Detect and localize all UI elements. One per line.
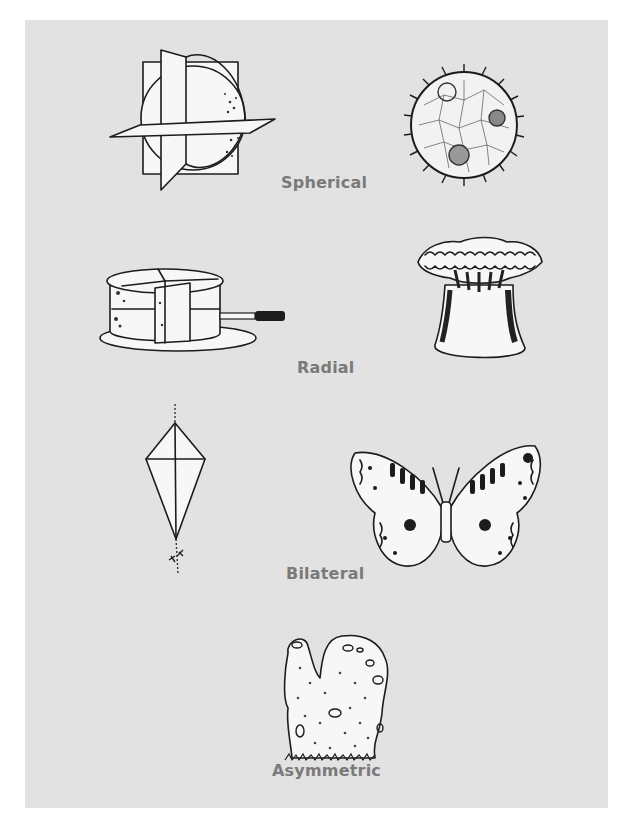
- label-asymmetric: Asymmetric: [272, 761, 381, 780]
- volvox-illustration: [399, 60, 529, 190]
- butterfly-illustration: [345, 438, 550, 573]
- kite-illustration: [145, 402, 235, 577]
- figure-panel: Spherical Radial: [25, 20, 608, 808]
- sea-anemone-illustration: [415, 230, 545, 365]
- label-spherical: Spherical: [281, 173, 367, 192]
- sphere-planes-illustration: [110, 42, 290, 192]
- sponge-illustration: [280, 628, 405, 768]
- cake-illustration: [100, 263, 300, 353]
- label-radial: Radial: [297, 358, 355, 377]
- label-bilateral: Bilateral: [286, 564, 364, 583]
